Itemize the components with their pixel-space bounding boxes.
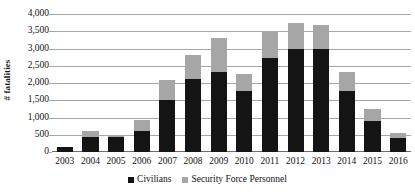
bar-segment-security-force-personnel[interactable]	[288, 23, 304, 49]
bar-stack[interactable]	[288, 23, 304, 152]
bar-group[interactable]	[180, 14, 206, 152]
y-axis-tick-label: 3,000	[28, 44, 49, 54]
bar-segment-security-force-personnel[interactable]	[364, 109, 380, 121]
bar-segment-civilians[interactable]	[159, 100, 175, 152]
x-axis-tick-label: 2004	[78, 154, 104, 169]
legend-item[interactable]: Civilians	[128, 175, 171, 185]
bar-segment-civilians[interactable]	[313, 49, 329, 152]
bar-group[interactable]	[360, 14, 386, 152]
bar-stack[interactable]	[185, 55, 201, 152]
y-axis-title: # fatalities	[0, 0, 14, 160]
bar-segment-civilians[interactable]	[339, 91, 355, 152]
legend-swatch-icon	[128, 177, 134, 183]
x-axis-tick-label: 2016	[385, 154, 411, 169]
bar-stack[interactable]	[339, 72, 355, 152]
bar-group[interactable]	[385, 14, 411, 152]
bar-segment-security-force-personnel[interactable]	[339, 72, 355, 91]
bar-segment-civilians[interactable]	[57, 147, 73, 152]
bar-segment-civilians[interactable]	[364, 121, 380, 152]
bar-group[interactable]	[334, 14, 360, 152]
x-axis-tick-label: 2012	[283, 154, 309, 169]
bar-group[interactable]	[231, 14, 257, 152]
plot-area	[52, 14, 411, 152]
bar-segment-security-force-personnel[interactable]	[185, 55, 201, 78]
x-axis-tick-label: 2006	[129, 154, 155, 169]
bar-group[interactable]	[155, 14, 181, 152]
x-axis-tick-label: 2003	[52, 154, 78, 169]
y-axis-title-text: # fatalities	[2, 60, 12, 101]
stacked-bar-chart: # fatalities 05001,0001,5002,0002,5003,0…	[0, 0, 415, 194]
bar-stack[interactable]	[82, 131, 98, 152]
bar-stack[interactable]	[236, 74, 252, 152]
bar-stack[interactable]	[390, 133, 406, 152]
x-axis-tick-label: 2013	[308, 154, 334, 169]
x-axis-tick-labels: 2003200420052006200720082009201020112012…	[52, 154, 411, 169]
legend-item[interactable]: Security Force Personnel	[182, 175, 287, 185]
bar-group[interactable]	[257, 14, 283, 152]
x-axis-tick-label: 2010	[231, 154, 257, 169]
bar-stack[interactable]	[108, 136, 124, 152]
bar-group[interactable]	[206, 14, 232, 152]
bar-stack[interactable]	[134, 120, 150, 152]
legend-label: Security Force Personnel	[191, 175, 287, 185]
chart-legend: CiviliansSecurity Force Personnel	[0, 172, 415, 188]
y-axis-tick-label: 1,000	[28, 113, 49, 123]
x-axis-tick-label: 2011	[257, 154, 283, 169]
y-axis-tick-label: 2,000	[28, 78, 49, 88]
y-axis-tick-label: 3,500	[28, 27, 49, 37]
y-axis-tick-label: 0	[44, 147, 49, 157]
bar-stack[interactable]	[262, 31, 278, 152]
bar-segment-civilians[interactable]	[108, 137, 124, 152]
x-axis-tick-label: 2009	[206, 154, 232, 169]
legend-label: Civilians	[137, 175, 171, 185]
bar-group[interactable]	[129, 14, 155, 152]
y-axis-tick-label: 2,500	[28, 61, 49, 71]
bar-stack[interactable]	[211, 38, 227, 152]
bar-segment-security-force-personnel[interactable]	[159, 80, 175, 100]
bar-segment-security-force-personnel[interactable]	[262, 31, 278, 58]
y-axis-tick-labels: 05001,0001,5002,0002,5003,0003,5004,000	[14, 14, 52, 152]
bar-group[interactable]	[103, 14, 129, 152]
bar-segment-civilians[interactable]	[185, 79, 201, 152]
bar-stack[interactable]	[313, 25, 329, 152]
bar-group[interactable]	[283, 14, 309, 152]
bar-segment-security-force-personnel[interactable]	[313, 25, 329, 48]
legend-swatch-icon	[182, 177, 188, 183]
y-axis-tick-label: 4,000	[28, 9, 49, 19]
x-axis-tick-label: 2005	[103, 154, 129, 169]
bar-segment-civilians[interactable]	[134, 131, 150, 152]
bar-stack[interactable]	[364, 109, 380, 152]
bar-segment-civilians[interactable]	[288, 49, 304, 153]
bar-group[interactable]	[52, 14, 78, 152]
bar-segment-security-force-personnel[interactable]	[211, 38, 227, 72]
bar-segment-civilians[interactable]	[211, 72, 227, 152]
x-axis-tick-label: 2008	[180, 154, 206, 169]
bar-group[interactable]	[78, 14, 104, 152]
bar-segment-civilians[interactable]	[82, 137, 98, 152]
bars-layer	[52, 14, 411, 152]
bar-segment-civilians[interactable]	[390, 138, 406, 152]
bar-group[interactable]	[308, 14, 334, 152]
x-axis-tick-label: 2014	[334, 154, 360, 169]
bar-stack[interactable]	[57, 147, 73, 152]
bar-segment-civilians[interactable]	[262, 58, 278, 152]
x-axis-tick-label: 2007	[155, 154, 181, 169]
bar-segment-security-force-personnel[interactable]	[236, 74, 252, 91]
bar-segment-security-force-personnel[interactable]	[134, 120, 150, 131]
x-axis-tick-label: 2015	[360, 154, 386, 169]
bar-stack[interactable]	[159, 80, 175, 152]
y-axis-tick-label: 1,500	[28, 96, 49, 106]
bar-segment-civilians[interactable]	[236, 91, 252, 152]
y-axis-tick-label: 500	[35, 130, 49, 140]
